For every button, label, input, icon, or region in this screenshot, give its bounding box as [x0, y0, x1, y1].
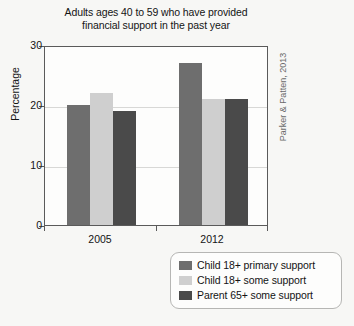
y-tick-label: 0 [2, 219, 42, 231]
x-tick-label-2012: 2012 [182, 233, 242, 245]
chart-title: Adults ages 40 to 59 who have provided f… [44, 6, 268, 32]
legend-item: Child 18+ primary support [179, 258, 333, 272]
bar-chart-figure: Adults ages 40 to 59 who have provided f… [0, 0, 354, 326]
chart-title-line-1: Adults ages 40 to 59 who have provided [44, 6, 268, 19]
y-tick-label: 10 [2, 159, 42, 171]
legend-swatch-icon [179, 291, 192, 300]
legend-swatch-icon [179, 261, 192, 270]
x-tick-label-2005: 2005 [70, 233, 130, 245]
bar [179, 63, 202, 225]
chart-legend: Child 18+ primary supportChild 18+ some … [170, 252, 342, 309]
legend-swatch-icon [179, 276, 192, 285]
x-tick-mark [44, 226, 45, 231]
x-tick-mark [267, 226, 268, 231]
legend-label: Child 18+ primary support [197, 259, 315, 271]
source-annotation: Parker & Patten, 2013 [278, 32, 288, 162]
legend-label: Child 18+ some support [197, 274, 306, 286]
y-tick-label: 20 [2, 99, 42, 111]
bar [67, 105, 90, 225]
y-axis-label: Percentage [9, 54, 21, 134]
legend-item: Child 18+ some support [179, 273, 333, 287]
chart-title-line-2: financial support in the past year [44, 19, 268, 32]
bar [90, 93, 113, 225]
bar [202, 99, 225, 225]
x-tick-mark [156, 226, 157, 231]
bar [113, 111, 136, 225]
legend-label: Parent 65+ some support [197, 289, 313, 301]
plot-area [44, 46, 268, 226]
bar [225, 99, 248, 225]
legend-item: Parent 65+ some support [179, 288, 333, 302]
y-tick-label: 30 [2, 39, 42, 51]
